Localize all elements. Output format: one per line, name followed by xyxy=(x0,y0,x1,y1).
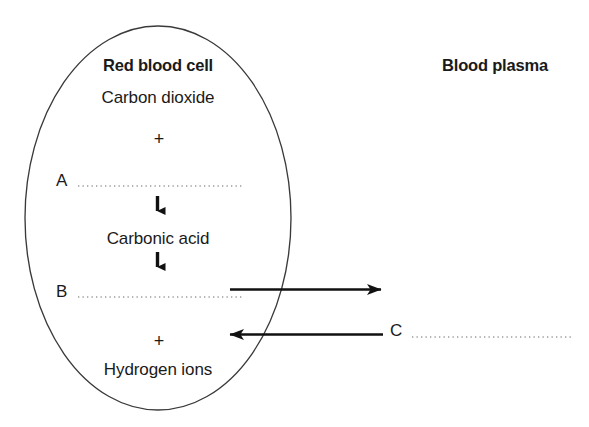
plus-operator-top: + xyxy=(154,130,165,148)
substance-hydrogen-ions: Hydrogen ions xyxy=(104,361,212,378)
substance-carbon-dioxide: Carbon dioxide xyxy=(102,89,215,106)
blood-plasma-title: Blood plasma xyxy=(442,57,548,74)
substance-carbonic-acid: Carbonic acid xyxy=(107,230,210,247)
diagram-canvas: Red blood cell Blood plasma Carbon dioxi… xyxy=(0,0,589,427)
red-blood-cell-outline xyxy=(25,26,291,410)
label-c: C xyxy=(390,322,402,339)
red-blood-cell-title: Red blood cell xyxy=(103,57,213,74)
plus-operator-bottom: + xyxy=(154,332,165,350)
label-b: B xyxy=(56,283,67,300)
label-a: A xyxy=(56,172,67,189)
